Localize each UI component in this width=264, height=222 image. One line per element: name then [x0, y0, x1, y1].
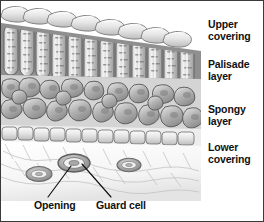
- leaf-body: [1, 4, 203, 201]
- leaf-cross-section-figure: Upper covering Palisade layer Spongy lay…: [0, 0, 264, 222]
- label-lower-covering: Lower covering: [208, 142, 251, 165]
- stoma-right: [117, 158, 141, 172]
- label-guard-cell: Guard cell: [96, 200, 146, 212]
- spongy-layer: [1, 75, 203, 131]
- label-opening: Opening: [34, 200, 76, 212]
- stoma-center: [58, 154, 90, 172]
- label-upper-covering: Upper covering: [208, 19, 251, 42]
- label-palisade-layer: Palisade layer: [208, 59, 249, 82]
- stoma-left: [26, 167, 52, 182]
- label-spongy-layer: Spongy layer: [208, 104, 246, 127]
